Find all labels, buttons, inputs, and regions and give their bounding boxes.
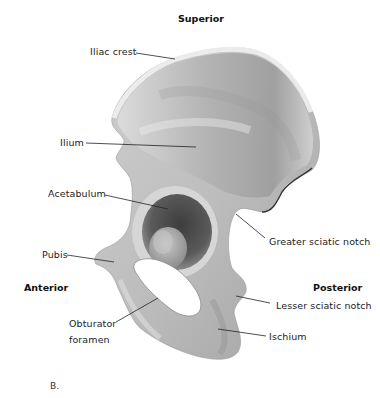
acetabulum-label: Acetabulum <box>48 189 106 199</box>
obturator-foramen-label-line2: foramen <box>69 335 110 345</box>
pubis-label: Pubis <box>42 250 68 260</box>
obturator-foramen-label-line1: Obturator <box>69 319 116 329</box>
hip-bone-diagram: Superior Anterior Posterior Iliac crest … <box>0 0 380 398</box>
ischium-label: Ischium <box>269 332 307 342</box>
superior-label: Superior <box>178 14 224 24</box>
iliac-crest-label: Iliac crest <box>90 47 137 57</box>
hip-bone-illustration <box>0 0 380 398</box>
anterior-label: Anterior <box>24 283 68 293</box>
posterior-label: Posterior <box>313 283 362 293</box>
panel-label: B. <box>50 381 59 391</box>
ilium-label: Ilium <box>60 138 84 148</box>
greater-sciatic-notch-label: Greater sciatic notch <box>269 237 370 247</box>
lesser-sciatic-notch-label: Lesser sciatic notch <box>276 301 372 311</box>
